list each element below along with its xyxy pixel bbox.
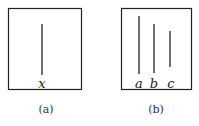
label-b: b bbox=[150, 77, 158, 90]
caption-a: (a) bbox=[38, 104, 53, 115]
label-c: c bbox=[167, 77, 174, 90]
diagram-canvas bbox=[0, 0, 199, 126]
label-x: x bbox=[38, 77, 45, 90]
caption-b: (b) bbox=[148, 104, 164, 115]
label-a: a bbox=[135, 77, 143, 90]
